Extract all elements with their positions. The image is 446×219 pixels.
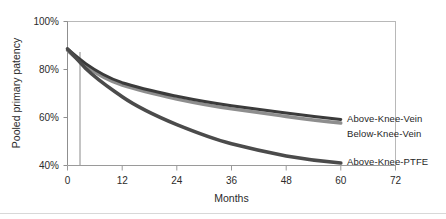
series-label-above-knee-ptfe: Above-Knee-PTFE: [347, 156, 428, 167]
patency-line-chart: 100% 80% 60% 40% 0 12 24 36 48 60 72 Mon…: [0, 0, 446, 219]
x-tick-labels: 0 12 24 36 48 60 72: [65, 175, 402, 186]
x-tick-label: 24: [171, 175, 183, 186]
x-axis-title: Months: [214, 192, 248, 204]
footer-divider: [0, 213, 446, 214]
series-label-below-knee-vein: Below-Knee-Vein: [347, 128, 421, 139]
x-tick-label: 36: [226, 175, 238, 186]
x-tick-label: 12: [117, 175, 129, 186]
y-tick-labels: 100% 80% 60% 40%: [33, 16, 59, 171]
y-tick-label: 40%: [39, 160, 59, 171]
y-axis-title: Pooled primary patency: [10, 37, 22, 148]
y-tick-label: 80%: [39, 64, 59, 75]
series-above-knee-vein: [68, 49, 341, 120]
y-tick-label: 100%: [33, 16, 59, 27]
x-tick-label: 60: [335, 175, 347, 186]
y-tick-label: 60%: [39, 112, 59, 123]
x-tick-label: 0: [65, 175, 71, 186]
x-tick-label: 48: [281, 175, 293, 186]
y-axis-ticks: [64, 22, 68, 166]
series-label-above-knee-vein: Above-Knee-Vein: [347, 113, 422, 124]
chart-figure: 100% 80% 60% 40% 0 12 24 36 48 60 72 Mon…: [0, 0, 446, 219]
x-tick-label: 72: [390, 175, 402, 186]
